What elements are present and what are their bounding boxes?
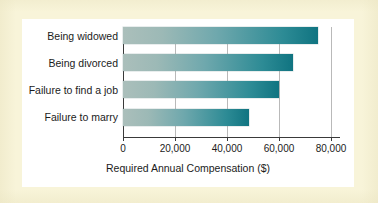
category-label: Being widowed	[47, 30, 118, 42]
tick-mark	[227, 137, 228, 141]
chart-panel: Being widowedBeing divorcedFailure to fi…	[22, 19, 354, 187]
x-tick-label: 60,000	[264, 143, 295, 154]
bar	[123, 81, 279, 98]
bar	[123, 54, 293, 71]
x-tick-label: 20,000	[160, 143, 191, 154]
tick-mark	[331, 137, 332, 141]
x-axis-title: Required Annual Compensation ($)	[22, 162, 354, 174]
category-label: Failure to marry	[44, 111, 118, 123]
bar-fill	[123, 109, 249, 126]
figure-root: Being widowedBeing divorcedFailure to fi…	[0, 0, 378, 203]
category-label: Failure to find a job	[29, 84, 118, 96]
x-axis-line	[123, 137, 340, 138]
tick-mark	[123, 137, 124, 141]
tick-mark	[175, 137, 176, 141]
x-tick-label: 40,000	[212, 143, 243, 154]
tick-mark	[279, 137, 280, 141]
x-tick-label: 80,000	[316, 143, 347, 154]
bar	[123, 109, 249, 126]
plot-area	[123, 27, 331, 136]
x-tick-label: 0	[120, 143, 126, 154]
category-label: Being divorced	[49, 57, 118, 69]
bar-fill	[123, 54, 293, 71]
bar-fill	[123, 27, 318, 44]
bar-fill	[123, 81, 279, 98]
bar	[123, 27, 318, 44]
gridline	[331, 27, 332, 137]
